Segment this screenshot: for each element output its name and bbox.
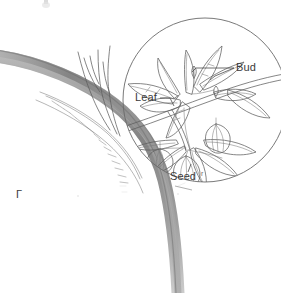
botanical-illustration: Bud Leaf Seed r Γ [0,0,281,293]
seed-underline [175,186,192,190]
leaf-leader-line [160,98,174,106]
top-edge-smudge [42,0,50,8]
label-seed: Seed [170,170,196,182]
illustration-canvas: Bud Leaf Seed r Γ [0,0,281,293]
main-branch [0,50,180,293]
label-bud: Bud [236,61,256,73]
detail-sprigs [152,90,222,158]
label-leaf: Leaf [135,91,158,103]
detail-twig [126,46,281,188]
label-seed-mark: r [201,170,204,177]
corner-bracket-mark: Γ [16,188,22,200]
